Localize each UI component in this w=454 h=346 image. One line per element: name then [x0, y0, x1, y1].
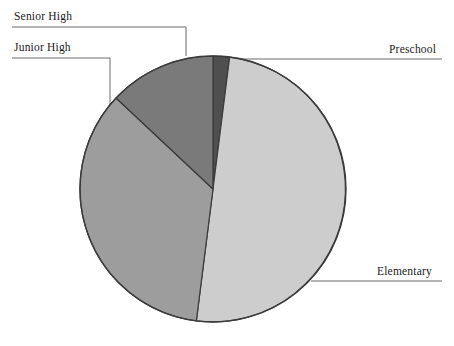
pie-label-senior-high: Senior High: [14, 11, 72, 23]
pie-chart-figure: Senior High Junior High Preschool Elemen…: [0, 0, 454, 346]
pie-label-elementary: Elementary: [377, 266, 432, 278]
leader-line-junior-high: [12, 58, 110, 106]
pie-label-junior-high: Junior High: [14, 42, 71, 54]
pie-label-preschool: Preschool: [389, 44, 436, 56]
pie-slices: [80, 56, 345, 322]
